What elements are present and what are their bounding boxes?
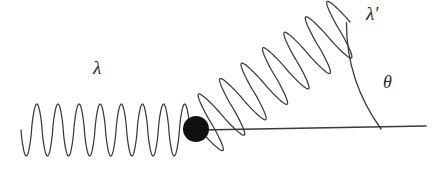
scattered-wavelength-label: λ′ [366,4,378,23]
diagram-canvas [0,0,435,169]
electron-sphere [183,116,209,142]
theta-arc [346,23,381,129]
compton-scattering-figure: λ λ′ θ [0,0,435,169]
incident-photon-wave [21,104,190,156]
scattering-angle-label: θ [383,73,392,91]
incident-wavelength-label: λ [93,58,101,77]
